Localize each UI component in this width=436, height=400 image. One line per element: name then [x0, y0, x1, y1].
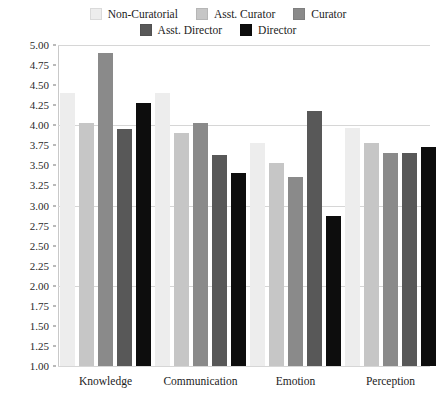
bar[interactable]: [288, 177, 303, 366]
y-axis-tick-mark: [53, 165, 56, 166]
y-axis-tick-label: 1.50: [30, 320, 49, 332]
bar-chart: Non-Curatorial Asst. Curator Curator Ass…: [0, 0, 436, 400]
y-axis-tick-mark: [53, 305, 56, 306]
legend-label-asst-curator: Asst. Curator: [214, 8, 275, 20]
x-axis-category-label: Perception: [343, 375, 436, 387]
bar[interactable]: [212, 155, 227, 366]
bar[interactable]: [307, 111, 322, 366]
legend-item-asst-curator[interactable]: Asst. Curator: [196, 8, 275, 20]
x-axis-category-label: Communication: [153, 375, 248, 387]
bar[interactable]: [421, 147, 436, 366]
gridline: [58, 366, 430, 367]
y-axis-tick-label: 2.75: [30, 220, 49, 232]
x-axis-category-label: Knowledge: [58, 375, 153, 387]
x-axis-category-label: Emotion: [248, 375, 343, 387]
y-axis-tick-mark: [53, 285, 56, 286]
y-axis-tick-mark: [53, 345, 56, 346]
y-axis-tick-mark: [53, 265, 56, 266]
plot-area: 5.004.754.504.254.003.753.503.253.002.75…: [58, 45, 430, 366]
y-axis-tick-mark: [53, 105, 56, 106]
y-axis-tick-label: 1.00: [30, 360, 49, 372]
bar[interactable]: [364, 143, 379, 366]
bar-groups: KnowledgeCommunicationEmotionPerception: [58, 45, 430, 366]
y-axis-tick-label: 5.00: [30, 39, 49, 51]
legend-label-non-curatorial: Non-Curatorial: [108, 8, 178, 20]
y-axis-tick-mark: [53, 366, 56, 367]
bar[interactable]: [117, 129, 132, 366]
legend-swatch-icon-asst-director: [140, 24, 152, 36]
bar[interactable]: [383, 153, 398, 366]
bar[interactable]: [326, 216, 341, 366]
y-axis-tick-mark: [53, 185, 56, 186]
legend-item-curator[interactable]: Curator: [293, 8, 346, 20]
legend-swatch-icon-asst-curator: [196, 8, 208, 20]
bar[interactable]: [79, 123, 94, 366]
y-axis-tick-label: 4.75: [30, 59, 49, 71]
bar[interactable]: [193, 123, 208, 366]
y-axis-tick-label: 2.25: [30, 260, 49, 272]
y-axis-tick-label: 4.50: [30, 79, 49, 91]
y-axis-tick-label: 2.50: [30, 240, 49, 252]
y-axis-tick-label: 3.00: [30, 200, 49, 212]
chart-legend: Non-Curatorial Asst. Curator Curator Ass…: [0, 8, 436, 36]
bar[interactable]: [98, 53, 113, 366]
bar[interactable]: [269, 163, 284, 366]
y-axis-tick-label: 1.75: [30, 300, 49, 312]
y-axis-tick-label: 4.25: [30, 99, 49, 111]
legend-item-asst-director[interactable]: Asst. Director: [140, 24, 223, 36]
y-axis-tick-mark: [53, 65, 56, 66]
y-axis-tick-mark: [53, 125, 56, 126]
legend-swatch-icon-non-curatorial: [90, 8, 102, 20]
y-axis-tick-mark: [53, 45, 56, 46]
y-axis-tick-label: 2.00: [30, 280, 49, 292]
bar[interactable]: [250, 143, 265, 366]
y-axis-tick-mark: [53, 205, 56, 206]
legend-swatch-icon-curator: [293, 8, 305, 20]
bar[interactable]: [155, 93, 170, 366]
legend-label-director: Director: [258, 24, 296, 36]
y-axis-tick-mark: [53, 325, 56, 326]
y-axis-tick-mark: [53, 85, 56, 86]
bar[interactable]: [174, 133, 189, 366]
bar[interactable]: [402, 153, 417, 366]
legend-label-asst-director: Asst. Director: [158, 24, 223, 36]
bar-group: Communication: [153, 45, 248, 366]
legend-item-director[interactable]: Director: [240, 24, 296, 36]
bar[interactable]: [60, 93, 75, 366]
y-axis-tick-label: 1.25: [30, 340, 49, 352]
y-axis-tick-mark: [53, 145, 56, 146]
bar-group: Knowledge: [58, 45, 153, 366]
legend-swatch-icon-director: [240, 24, 252, 36]
bar[interactable]: [136, 103, 151, 366]
legend-row-top: Non-Curatorial Asst. Curator Curator: [81, 8, 356, 20]
legend-item-non-curatorial[interactable]: Non-Curatorial: [90, 8, 178, 20]
y-axis-tick-label: 3.25: [30, 179, 49, 191]
y-axis-tick-label: 4.00: [30, 119, 49, 131]
legend-label-curator: Curator: [311, 8, 346, 20]
bar[interactable]: [231, 173, 246, 366]
y-axis-tick-label: 3.75: [30, 139, 49, 151]
y-axis-tick-mark: [53, 225, 56, 226]
y-axis-tick-mark: [53, 245, 56, 246]
bar-group: Emotion: [248, 45, 343, 366]
bar[interactable]: [345, 128, 360, 366]
bar-group: Perception: [343, 45, 436, 366]
y-axis-tick-label: 3.50: [30, 159, 49, 171]
legend-row-bottom: Asst. Director Director: [131, 24, 306, 36]
